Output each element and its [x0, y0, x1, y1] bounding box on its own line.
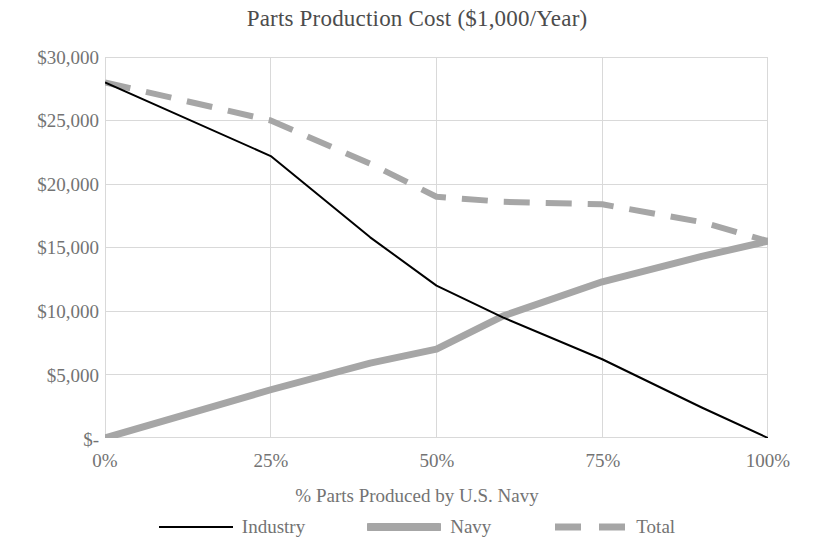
- legend-item-navy[interactable]: Navy: [367, 516, 491, 538]
- dashed-thick-line-swatch-icon: [553, 521, 627, 533]
- x-axis-labels: 0% 25% 50% 75% 100%: [0, 0, 834, 545]
- legend-label-navy: Navy: [450, 516, 491, 538]
- solid-thin-line-swatch-icon: [159, 521, 233, 533]
- x-tick-label: 100%: [708, 450, 828, 472]
- legend-label-industry: Industry: [242, 516, 305, 538]
- legend-item-total[interactable]: Total: [553, 516, 675, 538]
- x-tick-label: 25%: [211, 450, 331, 472]
- x-tick-label: 50%: [377, 450, 497, 472]
- chart-legend: Industry Navy Total: [0, 516, 834, 538]
- chart-container: Parts Production Cost ($1,000/Year) $30,…: [0, 0, 834, 545]
- legend-label-total: Total: [636, 516, 675, 538]
- solid-thick-line-swatch-icon: [367, 521, 441, 533]
- x-tick-label: 75%: [543, 450, 663, 472]
- legend-item-industry[interactable]: Industry: [159, 516, 305, 538]
- x-tick-label: 0%: [45, 450, 165, 472]
- x-axis-title: % Parts Produced by U.S. Navy: [0, 484, 834, 508]
